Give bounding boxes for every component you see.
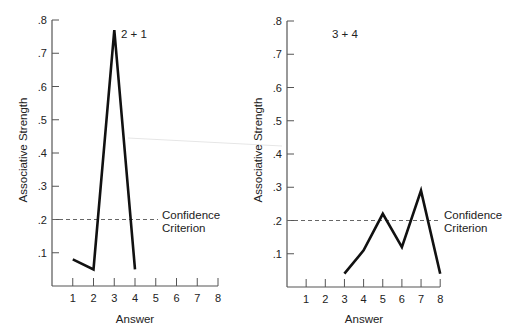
criterion-label: Criterion (162, 222, 205, 234)
x-tick-label: 4 (361, 293, 367, 305)
x-tick-label: 4 (132, 292, 138, 304)
y-tick-label: .1 (38, 247, 47, 259)
y-tick-label: .8 (38, 14, 47, 26)
y-tick-label: .3 (38, 180, 47, 192)
x-tick-label: 5 (380, 293, 386, 305)
y-tick-label: .2 (38, 214, 47, 226)
axes: .1.2.3.4.5.6.7.812345678 (273, 15, 443, 305)
y-tick-label: .4 (38, 147, 47, 159)
y-tick-label: .1 (273, 248, 282, 260)
criterion-label: Confidence (162, 209, 220, 221)
y-tick-label: .5 (273, 115, 282, 127)
y-axis-title: Associative Strength (252, 98, 264, 203)
x-tick-label: 7 (194, 292, 200, 304)
y-tick-label: .4 (273, 148, 282, 160)
x-axis-title: Answer (345, 313, 384, 325)
y-axis-title: Associative Strength (17, 98, 29, 203)
y-tick-label: .7 (273, 48, 282, 60)
panel-label: 2 + 1 (121, 28, 147, 40)
y-tick-label: .6 (38, 81, 47, 93)
criterion-label: Confidence (444, 209, 502, 221)
y-tick-label: .2 (273, 215, 282, 227)
x-tick-label: 1 (303, 293, 309, 305)
x-tick-label: 1 (70, 292, 76, 304)
x-tick-label: 8 (437, 293, 443, 305)
figure: .1.2.3.4.5.6.7.812345678 2 + 1 Associati… (0, 0, 519, 332)
chart-panel-right: .1.2.3.4.5.6.7.812345678 3 + 4 Associati… (252, 15, 502, 325)
x-tick-label: 2 (90, 292, 96, 304)
data-series-line (344, 191, 440, 274)
data-series-line (73, 30, 135, 269)
x-tick-label: 3 (341, 293, 347, 305)
criterion-label: Criterion (444, 222, 487, 234)
y-tick-label: .7 (38, 47, 47, 59)
x-tick-label: 7 (418, 293, 424, 305)
axes: .1.2.3.4.5.6.7.812345678 (38, 14, 221, 304)
y-tick-label: .3 (273, 181, 282, 193)
x-tick-label: 6 (399, 293, 405, 305)
x-tick-label: 5 (153, 292, 159, 304)
x-tick-label: 6 (173, 292, 179, 304)
y-tick-label: .5 (38, 114, 47, 126)
panel-label: 3 + 4 (332, 28, 359, 40)
x-axis-title: Answer (116, 313, 155, 325)
y-tick-label: .8 (273, 15, 282, 27)
chart-panel-left: .1.2.3.4.5.6.7.812345678 2 + 1 Associati… (17, 14, 221, 325)
x-tick-label: 3 (111, 292, 117, 304)
x-tick-label: 2 (322, 293, 328, 305)
y-tick-label: .6 (273, 82, 282, 94)
x-tick-label: 8 (215, 292, 221, 304)
